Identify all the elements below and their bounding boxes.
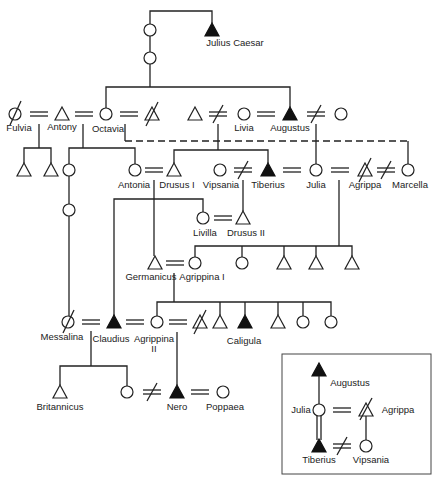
label-fulvia: Fulvia xyxy=(6,123,31,133)
atia-circle xyxy=(144,52,156,64)
label-caligula: Caligula xyxy=(227,336,261,346)
label-messalina: Messalina xyxy=(41,332,84,342)
label-julius-caesar: Julius Caesar xyxy=(206,38,264,48)
inset-label-tiberius: Tiberius xyxy=(302,455,335,465)
julia-caesaris-circle xyxy=(144,24,156,36)
generation-5 xyxy=(53,383,229,401)
generation-1 xyxy=(9,101,408,164)
generation-3 xyxy=(148,256,359,316)
inset-label-agrippa: Agrippa xyxy=(382,405,415,415)
inset-label-vipsania: Vipsania xyxy=(353,455,389,465)
label-julia: Julia xyxy=(306,180,326,190)
germanicus-symbol xyxy=(148,256,162,269)
agrippina-i-symbol xyxy=(189,257,201,269)
marcella-symbol xyxy=(402,164,414,176)
inset-label-julia: Julia xyxy=(291,405,311,415)
augustus-symbol xyxy=(283,107,297,120)
antonia-symbol xyxy=(129,164,141,176)
livia-symbol xyxy=(238,108,250,120)
livilla-symbol xyxy=(197,212,209,224)
label-livilla: Livilla xyxy=(193,228,217,238)
label-britannicus: Britannicus xyxy=(37,402,84,412)
scribonia-symbol xyxy=(335,108,347,120)
octavia-symbol xyxy=(100,108,112,120)
label-nero: Nero xyxy=(167,402,188,412)
top-lineage xyxy=(106,11,290,108)
julius-caesar-symbol xyxy=(205,23,219,36)
nero-symbol xyxy=(170,385,184,398)
label-vipsania: Vipsania xyxy=(203,180,239,190)
drusus-i-symbol xyxy=(167,163,181,176)
label-antony: Antony xyxy=(47,122,77,132)
label-claudius: Claudius xyxy=(93,334,130,344)
inset-label-augustus: Augustus xyxy=(330,378,370,388)
drusus-ii-symbol xyxy=(236,211,250,224)
label-drusus-ii: Drusus II xyxy=(227,228,265,238)
vipsania-symbol xyxy=(214,164,226,176)
britannicus-symbol xyxy=(53,385,67,398)
label-antonia: Antonia xyxy=(118,180,150,190)
label-augustus: Augustus xyxy=(270,123,310,133)
label-drusus-i: Drusus I xyxy=(159,180,194,190)
label-tiberius: Tiberius xyxy=(251,180,284,190)
claudius-symbol xyxy=(107,315,121,328)
label-agrippa: Agrippa xyxy=(349,180,382,190)
label-agrippina-i: Agrippina I xyxy=(179,272,224,282)
tiberius-symbol xyxy=(261,163,275,176)
antony-symbol xyxy=(55,107,69,120)
label-marcella: Marcella xyxy=(392,180,428,190)
label-agrippina-ii: Agrippina II xyxy=(134,334,174,354)
caligula-symbol xyxy=(238,315,252,328)
julia-symbol xyxy=(310,164,322,176)
label-poppaea: Poppaea xyxy=(206,402,244,412)
label-livia: Livia xyxy=(234,123,254,133)
label-octavia: Octavia xyxy=(92,124,124,134)
label-germanicus: Germanicus xyxy=(125,272,176,282)
agrippina-ii-symbol xyxy=(151,316,163,328)
label-agrippina-ii-line2: II xyxy=(134,344,174,354)
octavia-minor-symbol xyxy=(121,386,133,398)
poppaea-symbol xyxy=(217,386,229,398)
